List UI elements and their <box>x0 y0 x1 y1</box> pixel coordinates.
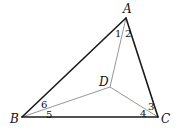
angle-label-3: 3 <box>148 101 154 112</box>
triangle-diagram: A B C D 1 2 6 5 3 4 <box>0 0 179 138</box>
vertex-label-a: A <box>122 2 132 16</box>
angle-label-5: 5 <box>46 109 52 120</box>
segment-bd <box>22 87 110 117</box>
angle-label-1: 1 <box>115 28 121 39</box>
vertex-label-b: B <box>9 112 19 126</box>
angle-label-2: 2 <box>125 28 131 39</box>
vertex-label-c: C <box>161 112 170 126</box>
vertex-label-d: D <box>98 75 109 89</box>
angle-label-4: 4 <box>140 108 146 119</box>
segment-ab <box>22 18 126 117</box>
